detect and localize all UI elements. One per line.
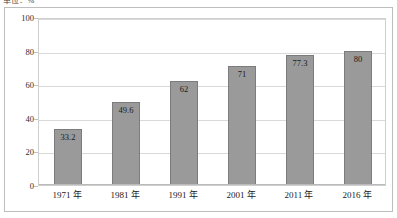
y-axis-tick-label: 40 [4,114,34,123]
x-axis-tick-label: 2001 年 [212,190,270,201]
y-axis-tick-label: 0 [4,182,34,191]
x-axis-tick-label: 1971 年 [38,190,96,201]
y-axis-tick-label: 20 [4,148,34,157]
y-axis-tick-label: 80 [4,47,34,56]
x-axis-tick-label: 1981 年 [96,190,154,201]
bar-chart-figure: 单位：% 020406080100 33.249.6627177.380 197… [0,0,397,218]
x-axis-tick-labels: 1971 年1981 年1991 年2001 年2011 年2016 年 [38,0,386,218]
y-axis-tick-label: 100 [4,14,34,23]
axis-unit-label: 单位：% [3,0,34,5]
y-axis-tick-label: 60 [4,81,34,90]
y-axis-tick-labels: 020406080100 [0,18,34,186]
x-axis-tick-label: 2016 年 [328,190,386,201]
x-axis-tick-label: 2011 年 [270,190,328,201]
x-axis-tick-label: 1991 年 [154,190,212,201]
